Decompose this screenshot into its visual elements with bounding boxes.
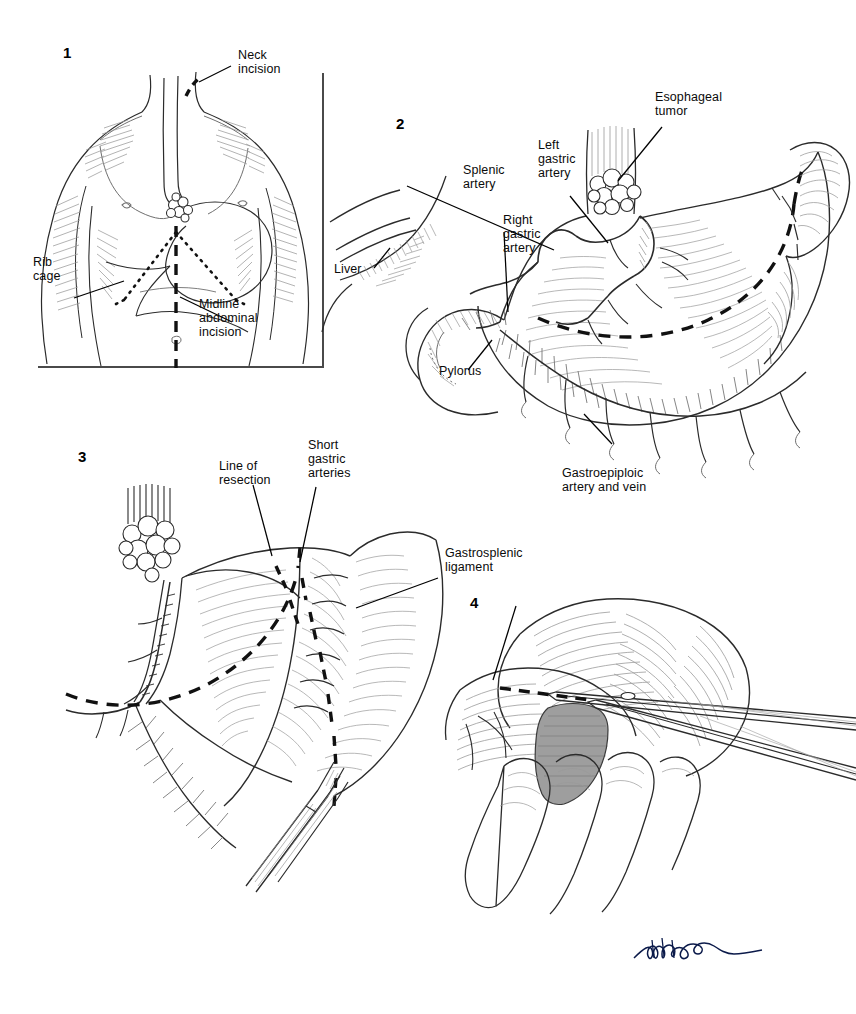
label-line-of-resection: Line of resection: [219, 459, 271, 487]
label-left-gastric-artery: Left gastric artery: [538, 138, 576, 180]
label-splenic-artery: Splenic artery: [463, 163, 505, 191]
label-right-gastric-artery: Right gastric artery: [503, 213, 541, 255]
panel-4-drawing: [446, 599, 856, 914]
artist-signature: [634, 938, 762, 959]
panel-1-torso-drawing: [41, 72, 308, 368]
panel-3-clamp: [246, 762, 348, 892]
label-esophageal-tumor: Esophageal tumor: [655, 90, 722, 118]
label-pylorus: Pylorus: [439, 364, 481, 378]
panel-number-2: 2: [396, 115, 404, 132]
label-liver: Liver: [334, 262, 362, 276]
panel-3-leaders: [253, 485, 438, 608]
label-gastrosplenic-ligament: Gastrosplenic ligament: [445, 546, 523, 574]
label-gastroepiploic-artery-and-vein: Gastroepiploic artery and vein: [562, 466, 646, 494]
panel-number-4: 4: [470, 594, 478, 611]
label-rib-cage: Rib cage: [33, 255, 61, 283]
label-short-gastric-arteries: Short gastric arteries: [308, 438, 350, 480]
label-midline-abdominal-incision: Midline abdominal incision: [199, 297, 258, 339]
panel-1-frame: [38, 73, 323, 367]
illustration-canvas: [0, 0, 856, 1014]
label-neck-incision: Neck incision: [238, 48, 281, 76]
surgical-figure: [0, 0, 856, 1014]
panel-number-3: 3: [78, 448, 86, 465]
panel-2-stomach-drawing: [322, 126, 850, 478]
panel-3-stomach-drawing: [66, 484, 443, 892]
panel-number-1: 1: [63, 44, 71, 61]
